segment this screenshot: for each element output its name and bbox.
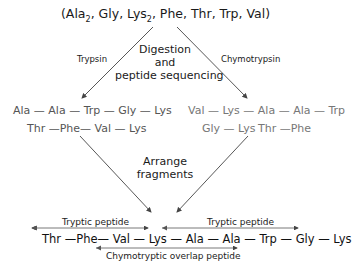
chymotrypsin-label: Chymotrypsin [221, 54, 280, 64]
trypsin-fragment-1: Ala — Ala — Trp — Gly — Lys [13, 104, 172, 117]
tryptic-peptide-left-label: Tryptic peptide [62, 217, 129, 227]
chymotrypsin-fragment-1: Val — Lys — Ala — Ala — Trp [188, 104, 345, 117]
tryptic-peptide-right-label: Tryptic peptide [207, 217, 274, 227]
step-arrange: Arrangefragments [125, 155, 205, 181]
amino-acid-composition: (Ala2, Gly, Lys2, Phe, Thr, Trp, Val) [0, 6, 331, 24]
overlap-peptide-label: Chymotryptic overlap peptide [106, 251, 241, 261]
step-digestion: Digestionandpeptide sequencing [115, 43, 215, 82]
chymotrypsin-fragment-3: Thr —Phe [258, 122, 311, 135]
final-sequence: Thr —Phe— Val — Lys — Ala — Ala — Trp — … [42, 232, 352, 246]
trypsin-label: Trypsin [77, 54, 107, 64]
chymotrypsin-fragment-2: Gly — Lys [202, 122, 255, 135]
trypsin-fragment-2: Thr —Phe— Val — Lys [27, 122, 146, 135]
